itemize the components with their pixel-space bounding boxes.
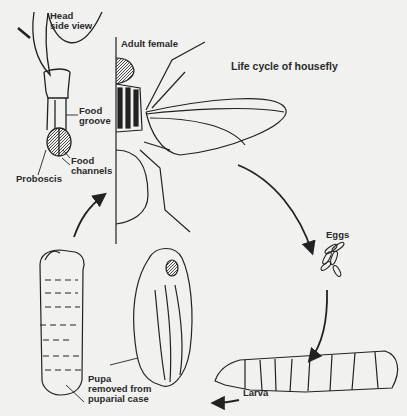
eggs-illustration — [320, 241, 345, 278]
larva-illustration — [215, 351, 398, 392]
arrow-pupa-to-adult — [74, 195, 104, 237]
diagram-canvas — [0, 0, 407, 416]
arrow-larva-to-pupa — [214, 400, 239, 403]
puparium-illustration — [40, 250, 84, 395]
label-eggs: Eggs — [326, 230, 349, 240]
label-food-channels-line2: channels — [71, 166, 112, 176]
pupa-illustration — [134, 248, 192, 386]
arrow-eggs-to-larva — [310, 290, 327, 360]
label-food-groove-line2: groove — [79, 116, 111, 126]
label-larva: Larva — [243, 388, 268, 398]
label-adult-female: Adult female — [121, 39, 178, 49]
label-head-side-view-line2: side view — [50, 21, 92, 31]
label-proboscis: Proboscis — [16, 174, 62, 184]
arrow-adult-to-eggs — [238, 165, 312, 252]
head-side-view-illustration — [18, 12, 102, 156]
label-pupa-line3: puparial case — [88, 394, 149, 404]
diagram-title: Life cycle of housefly — [231, 61, 338, 71]
